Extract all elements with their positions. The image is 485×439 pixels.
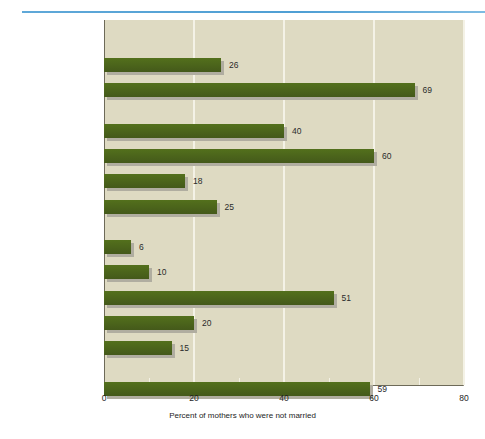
bar-value-label: 40	[292, 125, 301, 137]
bar-value-label: 51	[342, 292, 351, 304]
plot-area: 26694060182561051201559	[104, 20, 464, 386]
bar-row: 20	[104, 316, 464, 330]
bar-hawaiian[interactable]	[104, 291, 334, 305]
bar-value-label: 59	[378, 383, 387, 395]
bar-value-label: 18	[193, 175, 202, 187]
x-axis-title: Percent of mothers who were not married	[0, 411, 485, 420]
bar-cuban-american[interactable]	[104, 174, 185, 188]
bar-row: 10	[104, 265, 464, 279]
bar-mexican-american[interactable]	[104, 124, 284, 138]
bar-row: 26	[104, 58, 464, 72]
bar-value-label: 60	[382, 150, 391, 162]
bar-row: 15	[104, 341, 464, 355]
bar-row: 40	[104, 124, 464, 138]
x-tick-label-40: 40	[279, 393, 288, 403]
bar-filipino-american[interactable]	[104, 316, 194, 330]
bar-row: 6	[104, 240, 464, 254]
chart-page: 26694060182561051201559 NON-HISPANICWhit…	[0, 0, 485, 439]
bar-puerto-rican[interactable]	[104, 149, 374, 163]
x-tick-label-80: 80	[459, 393, 468, 403]
bar-value-label: 20	[202, 317, 211, 329]
bar-value-label: 26	[229, 59, 238, 71]
bar-row: 18	[104, 174, 464, 188]
bar-other[interactable]	[104, 341, 172, 355]
bar-white[interactable]	[104, 58, 221, 72]
bar-japanese-american[interactable]	[104, 265, 149, 279]
bar-row: 51	[104, 291, 464, 305]
bar-row: 69	[104, 83, 464, 97]
bar-african-american[interactable]	[104, 83, 415, 97]
bar-value-label: 10	[157, 266, 166, 278]
bar-cent-s-american[interactable]	[104, 200, 217, 214]
bar-row: 25	[104, 200, 464, 214]
bar-value-label: 69	[423, 84, 432, 96]
x-tick-label-60: 60	[369, 393, 378, 403]
bar-chinese-american[interactable]	[104, 240, 131, 254]
bar-value-label: 15	[180, 342, 189, 354]
bar-american-indian[interactable]	[104, 382, 370, 396]
plot-inner: 26694060182561051201559	[104, 20, 463, 385]
x-tick-label-0: 0	[102, 393, 107, 403]
bar-value-label: 25	[225, 201, 234, 213]
bar-row: 60	[104, 149, 464, 163]
bar-value-label: 6	[139, 241, 144, 253]
top-divider-rule	[22, 11, 485, 13]
x-tick-label-20: 20	[189, 393, 198, 403]
